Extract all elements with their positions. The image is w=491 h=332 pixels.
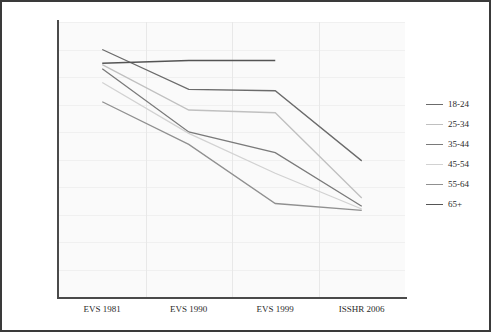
legend-item-18-24[interactable]: 18-24 (426, 94, 488, 114)
legend-item-45-54[interactable]: 45-54 (426, 154, 488, 174)
chart-figure: 0%10%20%30%40%50%60%70%80%90%100% EVS 19… (0, 0, 491, 332)
legend-line-icon (426, 204, 443, 205)
x-tick-label: EVS 1990 (144, 304, 234, 314)
legend-item-65+[interactable]: 65+ (426, 194, 488, 214)
series-line-45-54 (102, 83, 362, 210)
legend-line-icon (426, 164, 443, 165)
legend-item-35-44[interactable]: 35-44 (426, 134, 488, 154)
x-tick-label: EVS 1999 (230, 304, 320, 314)
legend-item-label: 25-34 (448, 120, 469, 129)
legend-item-label: 45-54 (448, 160, 469, 169)
legend-item-55-64[interactable]: 55-64 (426, 174, 488, 194)
series-line-35-44 (102, 69, 362, 207)
legend-item-label: 55-64 (448, 180, 469, 189)
legend-item-label: 35-44 (448, 140, 469, 149)
legend-line-icon (426, 184, 443, 185)
legend-item-label: 18-24 (448, 100, 469, 109)
series-line-55-64 (102, 102, 362, 211)
line-chart: 0%10%20%30%40%50%60%70%80%90%100% EVS 19… (2, 2, 412, 332)
x-axis-line (57, 297, 407, 299)
legend-line-icon (426, 124, 443, 125)
legend-item-label: 65+ (448, 200, 462, 209)
series-lines (59, 22, 405, 297)
legend-line-icon (426, 104, 443, 105)
x-tick-label: ISSHR 2006 (317, 304, 407, 314)
x-tick-label: EVS 1981 (57, 304, 147, 314)
legend-line-icon (426, 144, 443, 145)
series-line-25-34 (102, 65, 362, 198)
chart-legend: 18-2425-3435-4445-5455-6465+ (426, 94, 488, 214)
legend-item-25-34[interactable]: 25-34 (426, 114, 488, 134)
